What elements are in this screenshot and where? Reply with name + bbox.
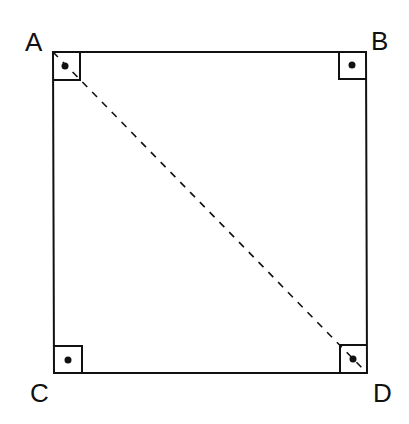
vertex-label-b: B <box>371 28 388 54</box>
vertex-label-d: D <box>373 380 392 406</box>
dot-c <box>65 357 72 364</box>
vertex-label-a: A <box>25 29 42 55</box>
square-diagram <box>0 0 409 424</box>
dot-a <box>62 63 69 70</box>
dot-b <box>349 62 356 69</box>
diagonal-ad <box>53 52 367 373</box>
dot-d <box>350 356 357 363</box>
vertex-label-c: C <box>30 380 49 406</box>
